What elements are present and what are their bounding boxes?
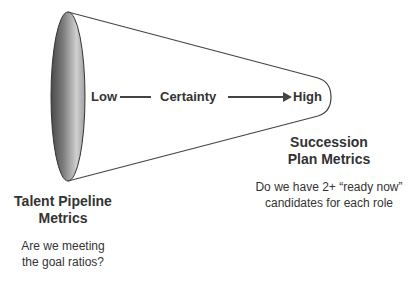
talent-pipeline-question-line2: the goal ratios? (2, 254, 124, 270)
succession-plan-question-line1: Do we have 2+ “ready now” (249, 179, 409, 195)
arrowhead-icon (283, 92, 292, 102)
talent-pipeline-heading-line1: Talent Pipeline (2, 193, 124, 210)
succession-plan-heading-line2: Plan Metrics (259, 151, 399, 168)
talent-pipeline-question: Are we meeting the goal ratios? (2, 238, 124, 270)
succession-plan-question: Do we have 2+ “ready now” candidates for… (249, 179, 409, 211)
talent-pipeline-heading-line2: Metrics (2, 210, 124, 227)
high-label: High (293, 89, 322, 104)
succession-plan-question-line2: candidates for each role (249, 195, 409, 211)
succession-plan-heading-line1: Succession (259, 134, 399, 151)
succession-plan-heading: Succession Plan Metrics (259, 134, 399, 168)
certainty-label: Certainty (160, 89, 216, 104)
talent-pipeline-question-line1: Are we meeting (2, 238, 124, 254)
talent-pipeline-heading: Talent Pipeline Metrics (2, 193, 124, 227)
low-label: Low (91, 89, 117, 104)
funnel-mouth-ellipse (51, 12, 85, 181)
